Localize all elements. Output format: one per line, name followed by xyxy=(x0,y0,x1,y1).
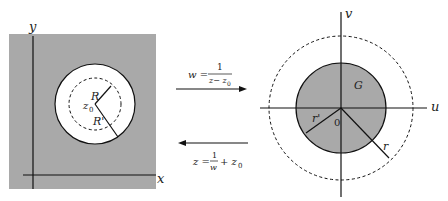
x-axis-label: x xyxy=(157,171,165,186)
inverse-map-tail-subscript: 0 xyxy=(238,162,242,170)
origin-label: 0 xyxy=(334,117,340,128)
conformal-map-diagram: y x R R' z 0 w = 1 z− z 0 z = 1 w + z 0 xyxy=(0,0,448,201)
right-panel: v u G 0 r' r xyxy=(260,6,439,197)
forward-mapping: w = 1 z− z 0 xyxy=(176,62,247,92)
forward-map-denominator: z− z xyxy=(208,76,227,85)
u-axis-label: u xyxy=(431,99,439,114)
inverse-arrowhead-icon xyxy=(178,140,186,146)
R-label: R xyxy=(90,90,99,103)
forward-arrowhead-icon xyxy=(239,86,247,92)
svg-text:z: z xyxy=(82,100,89,111)
forward-map-lhs: w = xyxy=(188,69,208,80)
region-G-label: G xyxy=(354,79,363,92)
inverse-map-tail: + z xyxy=(220,156,238,167)
v-axis-label: v xyxy=(345,6,353,21)
r-label: r xyxy=(383,140,389,153)
forward-map-numerator: 1 xyxy=(217,62,223,72)
r-prime-label: r' xyxy=(312,112,320,125)
R-prime-label: R' xyxy=(92,115,104,128)
left-panel: y x R R' z 0 xyxy=(9,19,165,189)
forward-map-denominator-subscript: 0 xyxy=(227,80,231,87)
inverse-map-lhs: z = xyxy=(192,156,210,167)
inverse-map-numerator: 1 xyxy=(212,151,217,160)
svg-text:0: 0 xyxy=(89,106,93,114)
inverse-map-denominator: w xyxy=(210,163,217,172)
inverse-mapping: z = 1 w + z 0 xyxy=(178,140,248,172)
y-axis-label: y xyxy=(28,19,37,34)
